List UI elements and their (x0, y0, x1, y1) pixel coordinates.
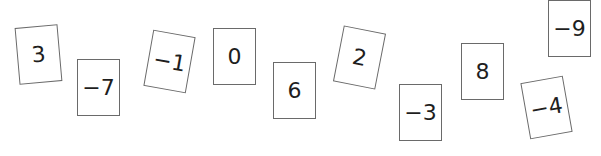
card-value: −3 (404, 102, 436, 124)
card-value: 8 (476, 61, 490, 83)
number-card-neg7: −7 (77, 59, 120, 116)
card-value: −1 (152, 48, 188, 75)
number-card-2: 2 (333, 25, 386, 89)
number-card-8: 8 (461, 43, 504, 100)
card-value: −9 (553, 18, 585, 40)
card-value: 0 (228, 46, 242, 68)
number-card-neg9: −9 (548, 0, 591, 57)
card-value: 2 (351, 45, 369, 69)
number-card-6: 6 (273, 62, 316, 119)
card-value: 6 (288, 80, 302, 102)
number-card-neg1: −1 (143, 30, 195, 94)
number-card-neg3: −3 (399, 84, 442, 141)
card-value: 3 (31, 43, 47, 66)
number-card-neg4: −4 (520, 76, 572, 140)
number-card-0: 0 (213, 28, 256, 85)
card-value: −7 (82, 77, 114, 99)
card-value: −4 (529, 94, 565, 121)
number-card-3: 3 (15, 24, 63, 85)
